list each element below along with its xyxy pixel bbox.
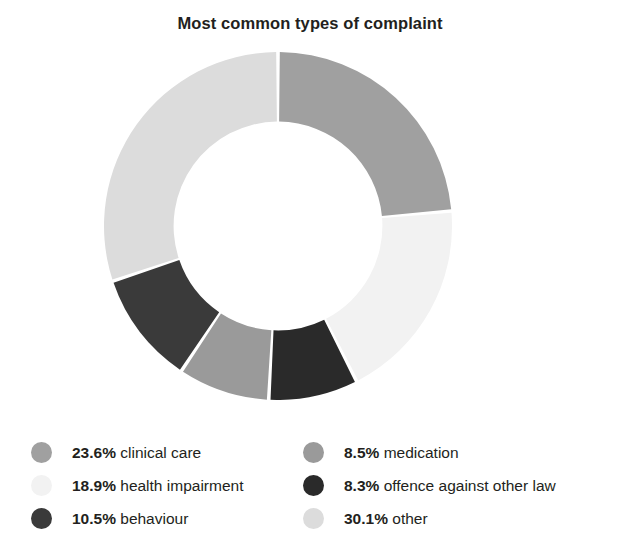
legend-column-right: 8.5% medication 8.3% offence against oth… bbox=[303, 436, 613, 535]
legend-swatch-icon bbox=[31, 508, 52, 529]
legend-swatch-icon bbox=[303, 475, 324, 496]
donut-chart bbox=[104, 52, 452, 400]
donut-chart-svg bbox=[104, 52, 452, 400]
legend-swatch-icon bbox=[303, 442, 324, 463]
legend-item-other[interactable]: 30.1% other bbox=[303, 502, 613, 535]
legend-percent: 18.9% bbox=[72, 477, 116, 494]
legend-swatch-icon bbox=[31, 475, 52, 496]
legend-swatch-icon bbox=[31, 442, 52, 463]
donut-slice[interactable] bbox=[326, 213, 452, 381]
legend-percent: 8.3% bbox=[344, 477, 379, 494]
legend-label: offence against other law bbox=[379, 477, 555, 494]
legend-label: behaviour bbox=[116, 510, 188, 527]
legend-item-offence-against-other-law[interactable]: 8.3% offence against other law bbox=[303, 469, 613, 502]
legend-label: clinical care bbox=[116, 444, 201, 461]
legend-label: health impairment bbox=[116, 477, 244, 494]
legend-text: 23.6% clinical care bbox=[72, 445, 201, 461]
legend-item-health-impairment[interactable]: 18.9% health impairment bbox=[31, 469, 306, 502]
legend-percent: 30.1% bbox=[344, 510, 388, 527]
legend-percent: 8.5% bbox=[344, 444, 379, 461]
legend-text: 18.9% health impairment bbox=[72, 478, 243, 494]
donut-slice[interactable] bbox=[104, 52, 277, 279]
legend-text: 10.5% behaviour bbox=[72, 511, 188, 527]
legend-text: 8.3% offence against other law bbox=[344, 478, 556, 494]
chart-legend: 23.6% clinical care 18.9% health impairm… bbox=[0, 436, 620, 544]
legend-text: 30.1% other bbox=[344, 511, 428, 527]
legend-label: other bbox=[388, 510, 428, 527]
legend-label: medication bbox=[379, 444, 458, 461]
legend-percent: 10.5% bbox=[72, 510, 116, 527]
donut-slice[interactable] bbox=[279, 52, 451, 216]
legend-item-medication[interactable]: 8.5% medication bbox=[303, 436, 613, 469]
donut-slice-group bbox=[104, 52, 452, 400]
legend-percent: 23.6% bbox=[72, 444, 116, 461]
legend-item-behaviour[interactable]: 10.5% behaviour bbox=[31, 502, 306, 535]
legend-swatch-icon bbox=[303, 508, 324, 529]
legend-column-left: 23.6% clinical care 18.9% health impairm… bbox=[31, 436, 306, 535]
legend-item-clinical-care[interactable]: 23.6% clinical care bbox=[31, 436, 306, 469]
legend-text: 8.5% medication bbox=[344, 445, 459, 461]
page-title: Most common types of complaint bbox=[0, 14, 620, 33]
